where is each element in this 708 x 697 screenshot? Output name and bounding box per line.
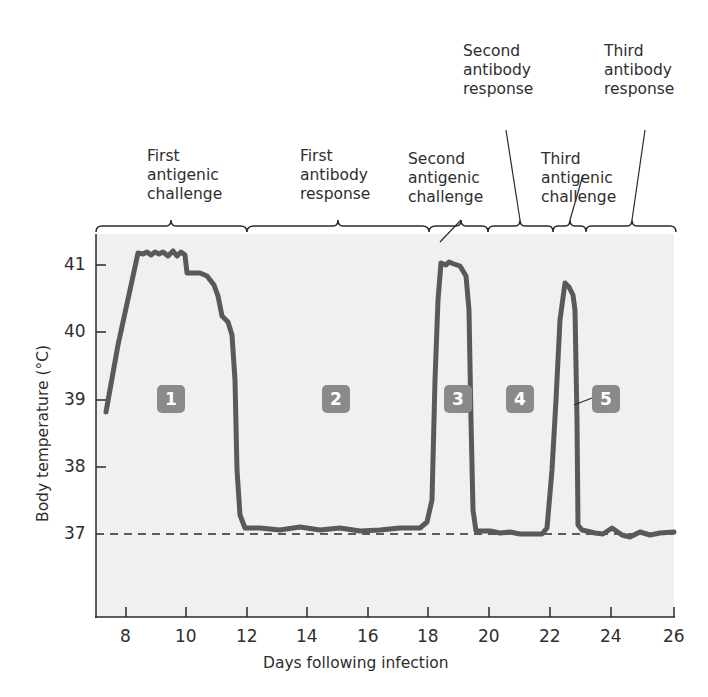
leader-third-response [632,130,645,220]
y-tick-40: 40 [64,321,86,341]
y-tick-41: 41 [64,254,86,274]
x-tick-8: 8 [120,626,131,646]
phase-marker-5: 5 [592,385,620,413]
plot-area [96,234,674,617]
x-tick-18: 18 [417,626,439,646]
y-tick-39: 39 [64,389,86,409]
x-tick-20: 20 [478,626,500,646]
label-first-antibody-response: First antibody response [300,147,370,204]
phase-marker-1: 1 [157,385,185,413]
y-tick-38: 38 [64,456,86,476]
leader-second-response [506,130,520,220]
x-tick-14: 14 [296,626,318,646]
x-tick-12: 12 [236,626,258,646]
label-second-antibody-response: Second antibody response [463,42,533,99]
x-axis-title: Days following infection [263,654,449,672]
label-second-antigenic-challenge: Second antigenic challenge [408,150,483,207]
phase-bracket [96,220,676,232]
x-tick-22: 22 [539,626,561,646]
label-third-antibody-response: Third antibody response [604,42,674,99]
label-first-antigenic-challenge: First antigenic challenge [147,147,222,204]
x-tick-24: 24 [600,626,622,646]
chart-canvas [0,0,708,697]
x-tick-10: 10 [175,626,197,646]
y-tick-37: 37 [64,523,86,543]
phase-marker-4: 4 [506,385,534,413]
x-tick-26: 26 [663,626,685,646]
phase-marker-2: 2 [322,385,350,413]
label-third-antigenic-challenge: Third antigenic challenge [541,150,616,207]
y-axis-title: Body temperature (°C) [34,345,52,522]
x-tick-16: 16 [357,626,379,646]
phase-marker-3: 3 [444,385,472,413]
